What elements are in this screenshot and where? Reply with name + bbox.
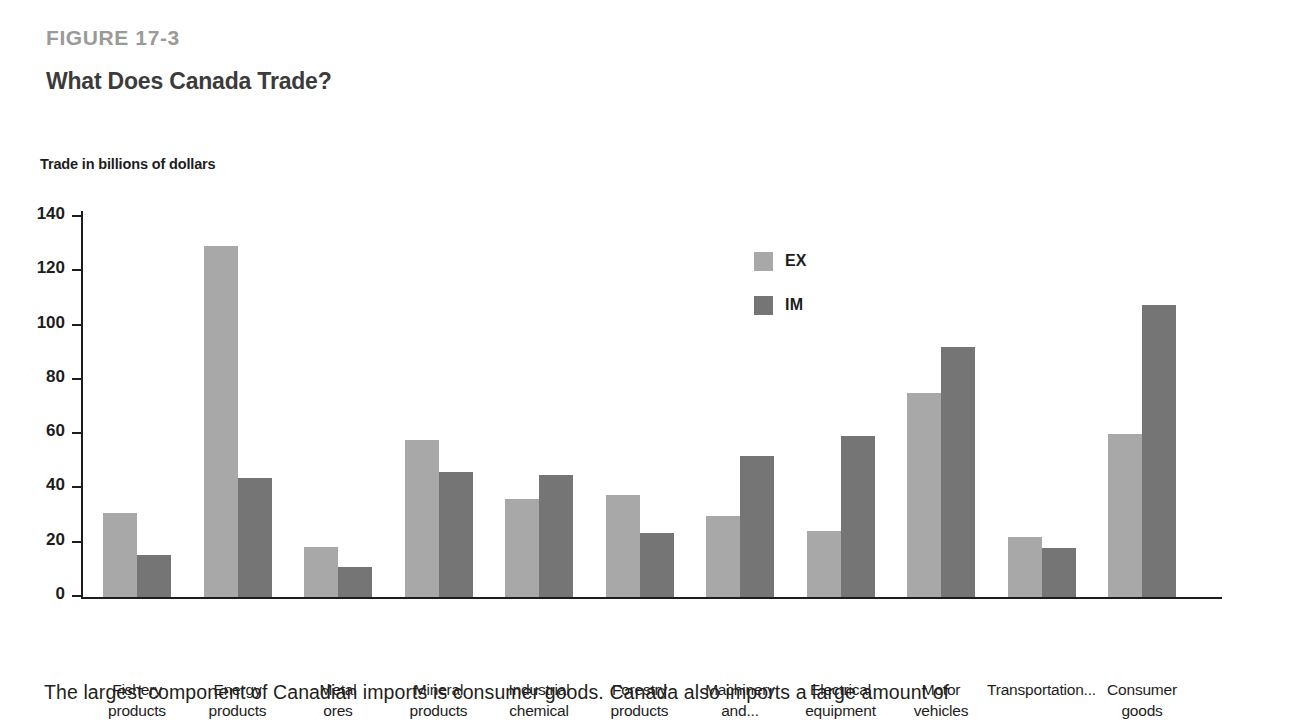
bar-im xyxy=(740,456,774,597)
bar-ex xyxy=(807,531,841,598)
y-axis-tick-label: 100 xyxy=(37,313,65,333)
y-axis-tick-label: 60 xyxy=(46,421,65,441)
bar-im xyxy=(137,555,171,597)
y-axis-tick: 120 xyxy=(72,269,81,271)
bar-group xyxy=(505,217,573,597)
bar-ex xyxy=(1108,434,1142,597)
figure-title: What Does Canada Trade? xyxy=(46,66,1266,96)
y-axis-tick: 0 xyxy=(72,595,81,597)
bar-ex xyxy=(907,393,941,597)
y-axis-tick: 140 xyxy=(72,215,81,217)
bar-im xyxy=(338,567,372,597)
bar-im xyxy=(1142,305,1176,597)
bar-ex xyxy=(304,547,338,597)
bar-group xyxy=(907,217,975,597)
bar-group xyxy=(606,217,674,597)
bar-im xyxy=(841,436,875,598)
y-axis-title: Trade in billions of dollars xyxy=(40,156,215,172)
y-axis-tick: 100 xyxy=(72,324,81,326)
legend-swatch-im xyxy=(754,296,773,315)
bar-group xyxy=(304,217,372,597)
bar-ex xyxy=(204,246,238,598)
bar-ex xyxy=(103,513,137,597)
bar-im xyxy=(238,478,272,597)
plot-area: 020406080100120140Fishery productsEnergy… xyxy=(81,217,1222,597)
x-axis-line xyxy=(81,597,1222,599)
bar-ex xyxy=(1008,537,1042,597)
y-axis-tick: 80 xyxy=(72,378,81,380)
bar-group xyxy=(1008,217,1076,597)
bar-ex xyxy=(405,440,439,597)
bar-ex xyxy=(606,495,640,597)
bar-im xyxy=(539,475,573,597)
y-axis-tick: 60 xyxy=(72,432,81,434)
bar-ex xyxy=(706,516,740,597)
legend-label: IM xyxy=(785,296,803,314)
bar-chart: Trade in billions of dollars 02040608010… xyxy=(0,140,1304,670)
y-axis-tick: 40 xyxy=(72,486,81,488)
legend-item: IM xyxy=(754,293,807,317)
legend-item: EX xyxy=(754,249,807,273)
bar-group xyxy=(807,217,875,597)
y-axis-tick-label: 20 xyxy=(46,530,65,550)
bar-im xyxy=(941,347,975,597)
y-axis-tick-label: 0 xyxy=(56,584,65,604)
bar-group xyxy=(405,217,473,597)
y-axis-tick: 20 xyxy=(72,541,81,543)
bar-ex xyxy=(505,499,539,597)
bar-im xyxy=(439,472,473,597)
chart-legend: EXIM xyxy=(754,249,807,337)
y-axis-tick-label: 80 xyxy=(46,367,65,387)
bar-im xyxy=(640,533,674,597)
bar-group xyxy=(1108,217,1176,597)
bar-im xyxy=(1042,548,1076,597)
y-axis-tick-label: 120 xyxy=(37,258,65,278)
figure-caption: The largest component of Canadian import… xyxy=(44,679,1274,705)
bar-group xyxy=(103,217,171,597)
legend-swatch-ex xyxy=(754,252,773,271)
figure-number: FIGURE 17-3 xyxy=(46,24,1266,52)
y-axis-tick-label: 140 xyxy=(37,204,65,224)
y-axis-tick-label: 40 xyxy=(46,475,65,495)
legend-label: EX xyxy=(785,252,807,270)
bar-group xyxy=(204,217,272,597)
figure-header: FIGURE 17-3 What Does Canada Trade? xyxy=(46,24,1266,96)
